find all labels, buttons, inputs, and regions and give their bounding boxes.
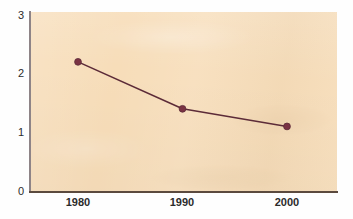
series-markers: [75, 58, 291, 129]
data-point-1990: [179, 105, 186, 112]
data-point-2000: [284, 123, 291, 130]
line-chart: 3 2 1 0 1980 1990 2000: [0, 0, 353, 219]
series-line: [78, 62, 287, 127]
data-point-1980: [75, 58, 82, 65]
series-layer: [0, 0, 353, 219]
